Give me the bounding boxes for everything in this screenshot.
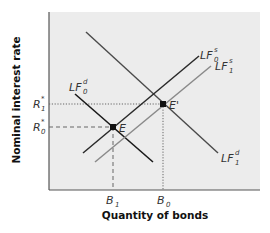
tick-label-r1-star: R * 1 [33,95,45,113]
svg-text:s: s [229,57,233,65]
svg-text:LF: LF [221,152,234,165]
svg-text:s: s [214,46,218,54]
svg-text:LF: LF [200,49,213,62]
point-label-e-prime: E' [169,99,179,112]
svg-text:R: R [33,121,41,134]
svg-text:0: 0 [166,201,171,209]
tick-label-b0: B 0 [157,194,171,209]
svg-text:*: * [41,95,45,103]
tick-label-b1: B 1 [106,194,119,209]
svg-text:0: 0 [41,128,46,136]
svg-text:1: 1 [235,159,239,167]
point-label-e: E [119,122,126,135]
equilibrium-point-e-prime [160,101,166,107]
x-axis-title: Quantity of bonds [102,209,209,221]
svg-text:B: B [157,194,165,207]
svg-text:0: 0 [83,88,88,96]
svg-text:B: B [106,194,114,207]
svg-text:*: * [41,118,45,126]
svg-text:LF: LF [215,60,228,73]
svg-text:d: d [235,149,240,157]
svg-text:R: R [33,98,41,111]
svg-text:1: 1 [115,201,119,209]
svg-text:LF: LF [69,81,82,94]
svg-text:d: d [83,78,88,86]
tick-label-r0-star: R * 0 [33,118,46,136]
svg-text:1: 1 [229,67,233,75]
y-axis-title: Nominal interest rate [10,36,22,163]
equilibrium-point-e [110,124,116,130]
loanable-funds-diagram: E E' LF s 0 LF s 1 LF d 0 LF d 1 R * 1 R… [0,0,270,233]
svg-text:1: 1 [41,105,45,113]
